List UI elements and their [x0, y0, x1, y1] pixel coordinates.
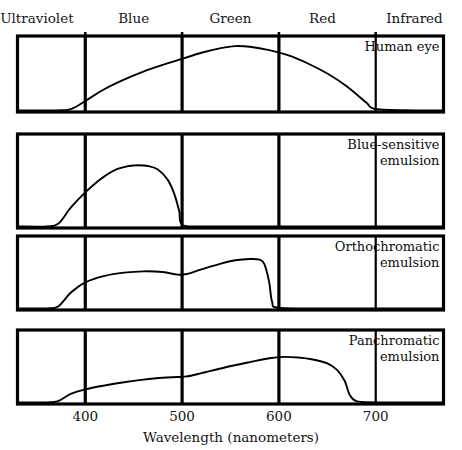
x-tick-label-700: 700	[363, 408, 389, 424]
x-tick-label-600: 600	[266, 408, 292, 424]
panel-label-4: Panchromaticemulsion	[349, 333, 440, 364]
band-header-infrared: Infrared	[386, 10, 443, 26]
spectral-sensitivity-figure: UltravioletBlueGreenRedInfraredHuman eye…	[0, 0, 462, 450]
panel-label-line2: emulsion	[335, 255, 440, 271]
band-header-blue: Blue	[118, 10, 149, 26]
panel-label-1: Human eye	[364, 39, 439, 55]
band-header-green: Green	[210, 10, 252, 26]
panel-label-line2: emulsion	[347, 153, 439, 169]
x-tick-label-400: 400	[72, 408, 98, 424]
panel-label-line1: Blue-sensitive	[347, 137, 439, 153]
band-header-ultraviolet: Ultraviolet	[0, 10, 73, 26]
panel-label-3: Orthochromaticemulsion	[335, 239, 440, 270]
panel-label-2: Blue-sensitiveemulsion	[347, 137, 439, 168]
panel-label-line2: emulsion	[349, 349, 440, 365]
panel-label-line1: Panchromatic	[349, 333, 440, 349]
x-axis-title: Wavelength (nanometers)	[0, 429, 462, 445]
x-tick-label-500: 500	[169, 408, 195, 424]
panel-label-line1: Human eye	[364, 39, 439, 55]
band-header-red: Red	[309, 10, 336, 26]
sensitivity-curve	[18, 46, 444, 111]
plot-canvas	[0, 0, 462, 450]
sensitivity-curve	[18, 165, 444, 226]
panel-label-line1: Orthochromatic	[335, 239, 440, 255]
